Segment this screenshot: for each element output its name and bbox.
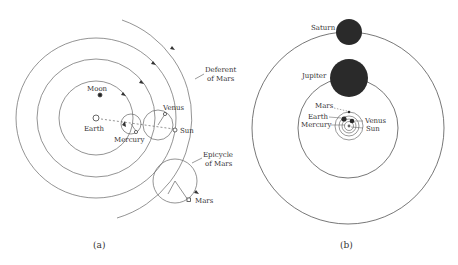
label-moon: Moon [87, 85, 108, 93]
caption-a: (a) [93, 240, 105, 250]
moon-marker [98, 93, 102, 97]
earth-marker [93, 115, 99, 121]
earth-dot [341, 116, 346, 121]
label-sun: Sun [180, 127, 194, 135]
arrow-icon [170, 46, 175, 50]
label-venus: Venus [162, 104, 185, 112]
label-sun-b: Sun [366, 125, 380, 133]
label-saturn: Saturn [311, 24, 336, 32]
earth-sun-line [101, 119, 174, 129]
label-earth-b: Earth [308, 113, 328, 121]
mars-marker [187, 198, 191, 202]
label-deferent-1: Deferent [205, 66, 236, 74]
diagram-figure: Moon Earth Mercury Venus Sun Deferent of… [0, 0, 458, 265]
mars-dot [348, 111, 351, 114]
arrow-icon [151, 61, 156, 65]
label-mars-b: Mars [315, 102, 334, 110]
label-epicycle-2: of Mars [205, 160, 233, 168]
sun-marker [173, 128, 177, 132]
labels-b: Saturn Jupiter Mars Earth Mercury Venus … [301, 24, 387, 250]
jupiter-disc [330, 59, 368, 97]
venus-dot [350, 119, 355, 124]
label-deferent-2: of Mars [207, 75, 235, 83]
label-mercury-b: Mercury [301, 121, 331, 129]
label-venus-b: Venus [364, 117, 387, 125]
leader-lines-a [192, 74, 204, 163]
mars-radius-line-1 [175, 181, 188, 200]
panel-a-geocentric [16, 20, 197, 218]
label-mars: Mars [195, 197, 214, 205]
label-earth: Earth [84, 125, 104, 133]
label-epicycle-1: Epicycle [203, 151, 233, 159]
bodies-b [330, 19, 368, 127]
label-jupiter: Jupiter [301, 72, 327, 80]
saturn-disc [336, 19, 362, 45]
label-mercury: Mercury [114, 136, 144, 144]
mercury-marker [134, 130, 137, 133]
labels-a: Moon Earth Mercury Venus Sun Deferent of… [84, 66, 236, 250]
venus-marker [163, 112, 166, 115]
caption-b: (b) [340, 240, 353, 250]
sun-dot [348, 125, 351, 128]
arrow-icon [121, 92, 126, 96]
